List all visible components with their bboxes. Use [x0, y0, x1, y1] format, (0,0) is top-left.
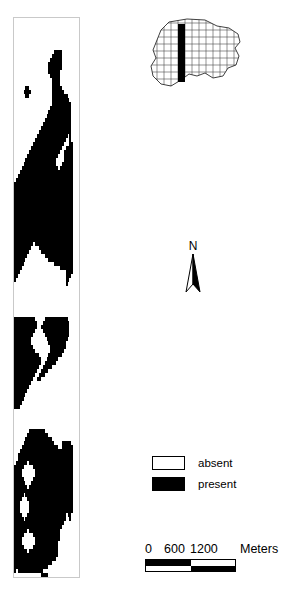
map-figure: N absent present 0 600 1200 Meters	[0, 0, 302, 591]
map-legend: absent present	[152, 452, 292, 494]
inset-grid	[143, 16, 249, 101]
legend-swatch-present	[152, 477, 185, 491]
legend-item-present: present	[152, 473, 292, 494]
scale-bar: 0 600 1200 Meters	[145, 541, 295, 572]
study-area-bar	[178, 24, 185, 82]
scale-tick-0: 0	[145, 541, 152, 557]
scale-tick-600: 600	[164, 541, 185, 557]
north-arrow: N	[176, 240, 210, 294]
presence-absence-raster-strip	[13, 17, 80, 578]
locator-inset-map	[143, 16, 249, 101]
scale-tick-1200: 1200	[190, 541, 218, 557]
legend-item-absent: absent	[152, 452, 292, 473]
scale-cell-4	[191, 566, 236, 572]
legend-label-present: present	[198, 477, 236, 491]
scale-bar-graphic	[145, 559, 236, 572]
scale-bar-units: Meters	[240, 541, 278, 557]
raster-canvas	[14, 18, 79, 577]
inset-map-svg	[143, 16, 249, 101]
north-arrow-glyph	[183, 253, 203, 293]
scale-bar-labels: 0 600 1200 Meters	[145, 541, 295, 557]
north-arrow-label: N	[176, 240, 210, 252]
legend-label-absent: absent	[198, 456, 233, 470]
legend-swatch-absent	[152, 456, 185, 470]
scale-cell-3	[146, 566, 191, 572]
